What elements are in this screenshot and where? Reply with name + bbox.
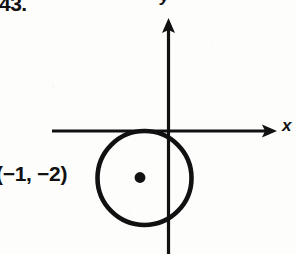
x-axis-label: x [282,117,291,134]
coordinate-plane-figure [0,0,296,254]
circle-center-point [135,172,146,183]
problem-number-label: 43. [0,0,27,14]
center-coordinate-label: (−1, −2) [0,163,67,184]
y-axis-label: y [160,0,169,5]
figure-page: 43. (−1, −2) x y [0,0,296,254]
